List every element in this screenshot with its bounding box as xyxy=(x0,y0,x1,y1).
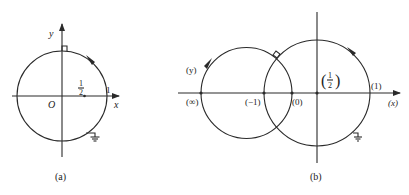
label-infinity: (∞) xyxy=(186,97,198,107)
point-infinity xyxy=(199,91,202,94)
half-label-b: ( 1 2 ) xyxy=(321,71,340,90)
y-axis-label-a: y xyxy=(48,28,54,39)
point-half xyxy=(315,91,318,94)
y-label-b: (y) xyxy=(186,65,197,75)
half-num-b: 1 xyxy=(328,71,332,80)
ground-icon xyxy=(86,133,100,141)
svg-text:): ) xyxy=(335,72,340,90)
half-num-a: 1 xyxy=(79,79,83,88)
right-angle-marker-a xyxy=(62,46,67,51)
ground-icon xyxy=(353,133,362,141)
caption-a: (a) xyxy=(55,171,66,183)
label-one: (1) xyxy=(371,81,382,91)
one-label-a: 1 xyxy=(106,85,111,95)
point-minus-one xyxy=(262,91,265,94)
direction-arrow-left-b xyxy=(204,58,212,69)
half-den-b: 2 xyxy=(328,81,332,90)
figure-b: (y) (∞) (−1) (0) (1) (x) ( 1 2 ) (b) xyxy=(178,12,400,183)
label-zero: (0) xyxy=(292,97,303,107)
diagram-canvas: y x O 1 2 1 (a) (y) (∞) (−1) xyxy=(0,0,409,195)
origin-label-a: O xyxy=(48,99,55,110)
svg-text:(: ( xyxy=(321,72,326,90)
x-axis-label-b: (x) xyxy=(388,98,398,108)
caption-b: (b) xyxy=(310,171,322,183)
label-minus-one: (−1) xyxy=(245,97,261,107)
point-zero xyxy=(290,91,293,94)
point-half-a xyxy=(83,95,86,98)
half-den-a: 2 xyxy=(79,88,83,97)
direction-arrow-right-b xyxy=(347,47,356,56)
x-axis-label-a: x xyxy=(113,99,119,110)
figure-a: y x O 1 2 1 (a) xyxy=(12,24,119,183)
